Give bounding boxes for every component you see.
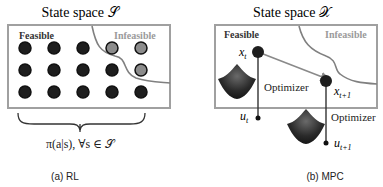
infeasible-state-point bbox=[135, 42, 147, 54]
feasible-state-point bbox=[19, 42, 31, 54]
policy-label: π(a|s), ∀s ∈ 𝒮 bbox=[46, 137, 116, 151]
optimizer-bowl-icon bbox=[287, 109, 325, 144]
control-label-t: ut bbox=[240, 109, 249, 125]
feasible-label: Feasible bbox=[224, 29, 260, 40]
feasible-state-point bbox=[77, 86, 89, 98]
transition-arrow bbox=[258, 52, 330, 80]
state-point-t1 bbox=[320, 75, 332, 87]
feasible-state-point bbox=[48, 86, 60, 98]
control-label-t1: ut+1 bbox=[334, 136, 352, 152]
infeasible-label: Infeasible bbox=[114, 30, 156, 41]
control-point-t bbox=[256, 116, 261, 121]
optimizer-label-2: Optimizer bbox=[331, 111, 376, 123]
feasible-label: Feasible bbox=[19, 30, 55, 41]
panel-rl: State space 𝒮 Feasible Infeasible π(a|s)… bbox=[8, 5, 170, 182]
state-point-t bbox=[252, 46, 264, 58]
infeasible-label: Infeasible bbox=[325, 29, 367, 40]
caption-a: (a) RL bbox=[51, 171, 79, 182]
brace bbox=[18, 113, 145, 130]
state-label-t1: xt+1 bbox=[333, 84, 351, 100]
feasible-state-point bbox=[19, 64, 31, 76]
feasible-state-point bbox=[106, 86, 118, 98]
caption-b: (b) MPC bbox=[306, 171, 343, 182]
optimizer-label-1: Optimizer bbox=[264, 81, 309, 93]
panel-mpc: State space 𝒳 Feasible Infeasible xt ut … bbox=[215, 5, 377, 182]
feasible-state-point bbox=[48, 64, 60, 76]
panel-b-title: State space 𝒳 bbox=[253, 5, 333, 20]
feasible-state-point bbox=[106, 64, 118, 76]
infeasible-state-point bbox=[135, 64, 147, 76]
infeasible-state-point bbox=[106, 42, 118, 54]
figure: State space 𝒮 Feasible Infeasible π(a|s)… bbox=[0, 0, 383, 187]
panel-a-title: State space 𝒮 bbox=[41, 5, 120, 20]
optimizer-bowl-icon bbox=[218, 64, 256, 99]
feasible-state-point bbox=[19, 86, 31, 98]
feasible-state-point bbox=[77, 42, 89, 54]
state-label-t: xt bbox=[238, 45, 247, 61]
feasible-state-point bbox=[77, 64, 89, 76]
control-point-t1 bbox=[324, 141, 329, 146]
feasible-state-point bbox=[48, 42, 60, 54]
feasible-state-point bbox=[135, 86, 147, 98]
